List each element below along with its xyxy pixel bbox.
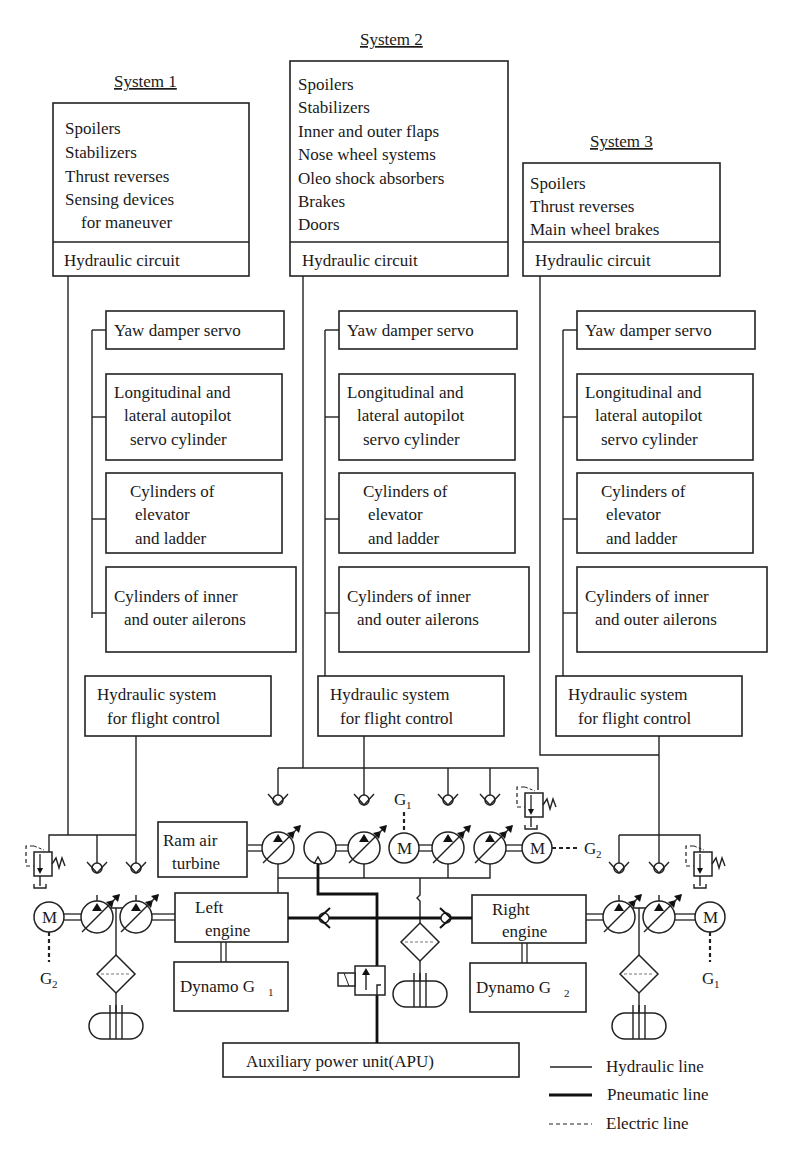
system-1-consumer: Spoilers (65, 119, 121, 138)
ailerons-label: Cylinders of inner (114, 587, 238, 606)
elevator-label: Cylinders of (130, 482, 215, 501)
system-1-consumer: Stabilizers (65, 143, 137, 162)
dynamo-g1-box: Dynamo G 1 (174, 962, 288, 1011)
ailerons-label: Cylinders of inner (347, 587, 471, 606)
g2-label: G (40, 969, 52, 988)
hyd-system-label: for flight control (578, 709, 692, 728)
system-3-circuit-label: Hydraulic circuit (535, 251, 651, 270)
autopilot-label: lateral autopilot (124, 406, 231, 425)
system-3-title: System 3 (590, 132, 653, 151)
right-engine-box: Right engine (472, 895, 586, 943)
system-2-consumer: Doors (298, 215, 340, 234)
system-3-consumer: Thrust reverses (530, 197, 634, 216)
apu-box: Auxiliary power unit(APU) (223, 1043, 519, 1077)
g1-sub: 1 (714, 978, 720, 990)
air-turbine-icon (304, 832, 336, 864)
motor-label: M (397, 839, 412, 858)
flight-control-column-3: Yaw damper servo Longitudinal and latera… (556, 311, 767, 736)
autopilot-label: Longitudinal and (347, 383, 464, 402)
system-3-consumer: Spoilers (530, 174, 586, 193)
ram-air-turbine-box: Ram air turbine (158, 822, 247, 877)
motor-label: M (530, 839, 545, 858)
autopilot-label: Longitudinal and (114, 383, 231, 402)
elevator-label: and ladder (135, 529, 207, 548)
system-1-consumer: Sensing devices (65, 190, 174, 209)
system-2-consumer: Inner and outer flaps (298, 122, 439, 141)
dynamo-g1-label: Dynamo G (180, 977, 255, 996)
dynamo-g2-sub: 2 (564, 987, 570, 999)
hyd-system-label: for flight control (107, 709, 221, 728)
elevator-label: and ladder (368, 529, 440, 548)
hyd-system-label: Hydraulic system (97, 685, 216, 704)
g1-label: G (394, 790, 406, 809)
system-1-title: System 1 (114, 72, 177, 91)
autopilot-label: lateral autopilot (357, 406, 464, 425)
motor-label: M (703, 908, 718, 927)
legend-pneumatic-label: Pneumatic line (607, 1085, 709, 1104)
hyd-system-label: Hydraulic system (330, 685, 449, 704)
left-engine-box: Left engine (175, 893, 288, 942)
autopilot-label: servo cylinder (363, 430, 460, 449)
dynamo-g1-sub: 1 (268, 986, 274, 998)
flight-control-column-2: Yaw damper servo Longitudinal and latera… (318, 311, 529, 736)
system-1-box: Spoilers Stabilizers Thrust reverses Sen… (53, 103, 249, 276)
legend-electric-label: Electric line (606, 1114, 689, 1133)
elevator-label: and ladder (606, 529, 678, 548)
ailerons-label: and outer ailerons (357, 610, 479, 629)
g2-sub: 2 (52, 978, 58, 990)
elevator-label: elevator (606, 505, 661, 524)
system-3-box: Spoilers Thrust reverses Main wheel brak… (523, 163, 720, 276)
yaw-damper-label: Yaw damper servo (347, 321, 474, 340)
system-2-title: System 2 (360, 30, 423, 49)
hyd-system-label: for flight control (340, 709, 454, 728)
system-2-circuit-label: Hydraulic circuit (302, 251, 418, 270)
elevator-label: elevator (368, 505, 423, 524)
system-2-consumer: Spoilers (298, 75, 354, 94)
legend-hydraulic-label: Hydraulic line (606, 1057, 704, 1076)
ailerons-label: and outer ailerons (595, 610, 717, 629)
system-1-circuit-label: Hydraulic circuit (64, 251, 180, 270)
hydraulic-system-diagram: System 1 System 2 System 3 Spoilers Stab… (0, 0, 797, 1161)
autopilot-label: lateral autopilot (595, 406, 702, 425)
autopilot-label: servo cylinder (601, 430, 698, 449)
system-2-box: Spoilers Stabilizers Inner and outer fla… (290, 61, 508, 276)
g2-sub: 2 (596, 848, 602, 860)
system-2-consumer: Oleo shock absorbers (298, 169, 444, 188)
pneumatic-lines (288, 864, 472, 1043)
left-engine-label: engine (205, 921, 250, 940)
elevator-label: Cylinders of (363, 482, 448, 501)
left-engine-label: Left (195, 898, 224, 917)
generator-labels: G 2 G 1 G 2 G 1 (40, 790, 720, 990)
yaw-damper-label: Yaw damper servo (585, 321, 712, 340)
system-1-consumer: for maneuver (81, 213, 172, 232)
autopilot-label: servo cylinder (130, 430, 227, 449)
g1-sub: 1 (406, 799, 412, 811)
ailerons-label: and outer ailerons (124, 610, 246, 629)
legend: Hydraulic line Pneumatic line Electric l… (549, 1057, 709, 1133)
ailerons-label: Cylinders of inner (585, 587, 709, 606)
yaw-damper-label: Yaw damper servo (114, 321, 241, 340)
autopilot-label: Longitudinal and (585, 383, 702, 402)
apu-label: Auxiliary power unit(APU) (246, 1052, 434, 1071)
solenoid-valve-icon (338, 966, 385, 995)
system-2-consumer: Nose wheel systems (298, 145, 436, 164)
elevator-label: Cylinders of (601, 482, 686, 501)
flight-control-column-1: Yaw damper servo Longitudinal and latera… (85, 311, 296, 736)
right-engine-label: engine (502, 922, 547, 941)
system-2-consumer: Stabilizers (298, 98, 370, 117)
dynamo-g2-box: Dynamo G 2 (470, 963, 586, 1012)
elevator-label: elevator (135, 505, 190, 524)
motor-label: M (42, 908, 57, 927)
dynamo-g2-label: Dynamo G (476, 978, 551, 997)
ram-air-label: Ram air (163, 831, 218, 850)
system-2-consumer: Brakes (298, 192, 345, 211)
g1-label: G (702, 969, 714, 988)
system-3-consumer: Main wheel brakes (530, 220, 659, 239)
hyd-system-label: Hydraulic system (568, 685, 687, 704)
system-1-consumer: Thrust reverses (65, 167, 169, 186)
g2-label: G (584, 839, 596, 858)
ram-air-label: turbine (172, 854, 220, 873)
right-engine-label: Right (492, 900, 530, 919)
